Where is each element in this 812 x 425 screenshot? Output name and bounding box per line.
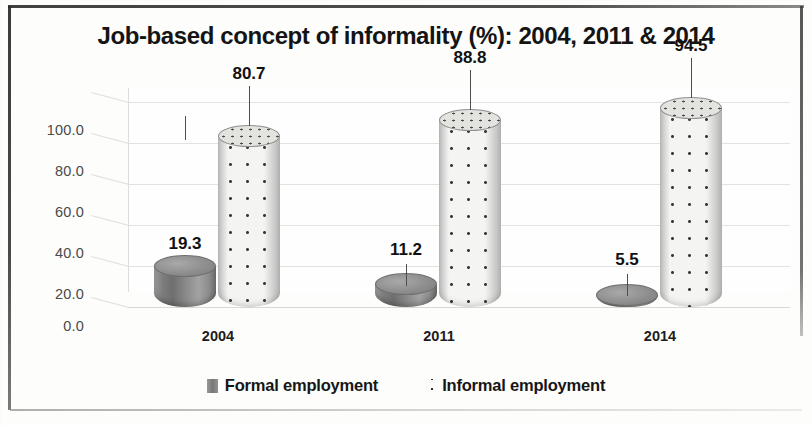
- cylinder-top: [439, 109, 501, 131]
- bar-informal-2004[interactable]: [218, 136, 280, 307]
- y-axis: 100.0 80.0 60.0 40.0 20.0 0.0: [0, 88, 84, 328]
- value-label-formal-2014: 5.5: [587, 250, 667, 270]
- value-label-formal-2004: 19.3: [145, 234, 225, 254]
- page-border-top: [8, 5, 804, 8]
- label-leader-line: [185, 116, 186, 140]
- x-axis: 2004 2011 2014: [90, 328, 790, 352]
- label-leader-line: [627, 274, 628, 296]
- cylinder-body: [660, 108, 722, 307]
- value-label-formal-2011: 11.2: [366, 240, 446, 260]
- chart-page: Job-based concept of informality (%): 20…: [0, 0, 812, 425]
- label-leader-line: [249, 86, 250, 126]
- x-tick-label-2004: 2004: [173, 328, 263, 344]
- y-tick-label: 0.0: [0, 318, 84, 334]
- sidewall-gridline-20: [91, 256, 129, 267]
- y-tick-label: 100.0: [0, 122, 84, 138]
- y-tick-label: 60.0: [0, 204, 84, 220]
- y-tick-label: 20.0: [0, 286, 84, 302]
- sidewall-gridline-100: [91, 92, 129, 103]
- sidewall-gridline-60: [91, 174, 129, 185]
- cylinder-top: [154, 255, 216, 277]
- cylinder-body: [439, 120, 501, 307]
- label-leader-line: [406, 264, 407, 286]
- page-border-bottom: [10, 409, 802, 411]
- label-leader-line: [470, 70, 471, 110]
- cylinder-top: [218, 125, 280, 147]
- cylinder-body: [218, 136, 280, 307]
- legend-swatch-formal-icon: [207, 379, 218, 393]
- x-tick-label-2014: 2014: [615, 328, 705, 344]
- value-label-informal-2004: 80.7: [209, 64, 289, 84]
- legend-item-informal[interactable]: Informal employment: [424, 376, 605, 395]
- page-border-right: [800, 6, 803, 336]
- value-label-informal-2011: 88.8: [430, 48, 510, 68]
- chart-wall-edge: [128, 88, 129, 292]
- value-label-informal-2014: 94.5: [651, 36, 731, 56]
- label-leader-line: [691, 58, 692, 98]
- bar-informal-2014[interactable]: [660, 108, 722, 307]
- sidewall-gridline-0: [91, 297, 129, 308]
- bar-formal-2014[interactable]: [596, 295, 658, 307]
- gridline-0: [128, 307, 790, 308]
- bar-formal-2011[interactable]: [375, 284, 437, 307]
- bar-formal-2004[interactable]: [154, 266, 216, 307]
- bar-informal-2011[interactable]: [439, 120, 501, 307]
- legend-label-informal: Informal employment: [442, 376, 605, 395]
- x-tick-label-2011: 2011: [394, 328, 484, 344]
- sidewall-gridline-80: [91, 133, 129, 144]
- y-tick-label: 40.0: [0, 245, 84, 261]
- sidewall-gridline-40: [91, 215, 129, 226]
- chart-legend: Formal employment Informal employment: [0, 376, 812, 395]
- cylinder-top: [660, 97, 722, 119]
- legend-item-formal[interactable]: Formal employment: [207, 376, 378, 395]
- legend-swatch-informal-icon: [424, 379, 435, 393]
- y-tick-label: 80.0: [0, 163, 84, 179]
- plot-area: 19.3 80.7 11.2 88.8 5.5 94.5: [90, 88, 790, 320]
- legend-label-formal: Formal employment: [225, 376, 378, 395]
